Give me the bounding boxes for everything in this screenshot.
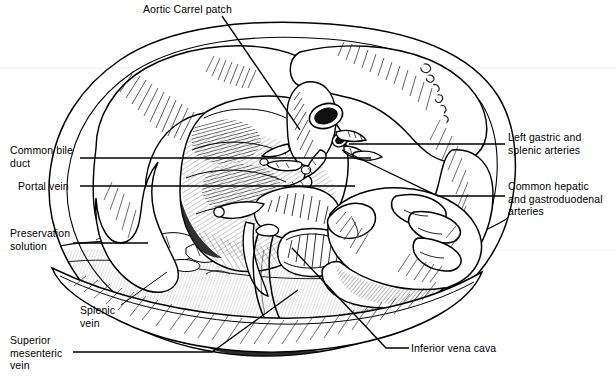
label-splenic-vein: Splenic vein [80,304,115,329]
label-inferior-vena-cava: Inferior vena cava [411,342,496,355]
common-bile-duct-stub [353,151,382,160]
left-gastric-splenic-artery-stub [336,130,366,141]
common-bile-duct-group [353,151,382,160]
label-superior-mesenteric-vein: Superior mesenteric vein [10,334,62,372]
label-portal-vein: Portal vein [18,180,69,193]
label-left-gastric-and-splenic-arteries: Left gastric and splenic arteries [508,131,581,156]
anatomical-figure: Aortic Carrel patch Common bile duct Por… [0,0,616,376]
label-common-hepatic-and-gastroduodenal-arteries: Common hepatic and gastroduodenal arteri… [508,180,603,218]
label-common-bile-duct: Common bile duct [10,144,73,169]
label-preservation-solution: Preservation solution [10,227,70,252]
label-aortic-carrel-patch: Aortic Carrel patch [143,3,232,16]
splenic-vein-stump [214,207,224,217]
artery-end-knot [260,159,268,166]
